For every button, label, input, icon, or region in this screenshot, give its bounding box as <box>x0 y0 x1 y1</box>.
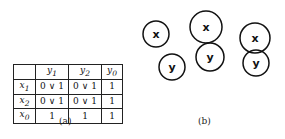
node-label: y <box>168 61 175 74</box>
node-label: y <box>206 51 213 64</box>
caption-b: (b) <box>198 116 211 126</box>
node-group: xyxyxy <box>143 11 270 80</box>
panel-b: xyxyxy <box>0 0 285 139</box>
node-label: x <box>152 28 159 41</box>
node-label: x <box>202 21 209 34</box>
node-label: y <box>252 57 259 70</box>
node-label: x <box>251 32 258 45</box>
